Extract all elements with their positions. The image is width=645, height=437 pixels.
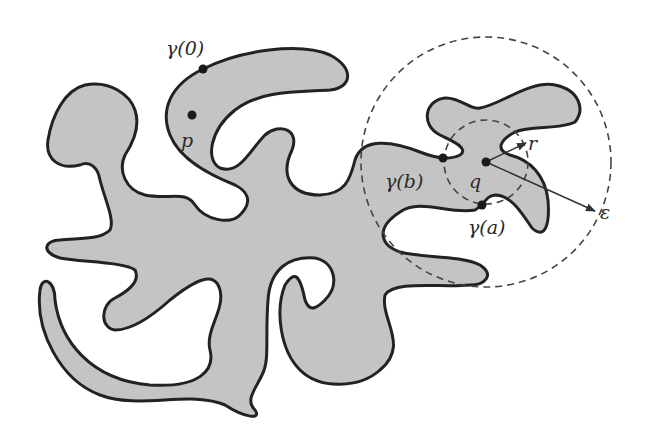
- q-point: [482, 158, 491, 167]
- r-label: r: [528, 132, 539, 154]
- p-label: p: [181, 129, 193, 151]
- gamma-a-label: γ(a): [468, 216, 506, 238]
- topology-diagram: γ(0) p γ(b) q γ(a) r ε: [0, 0, 645, 437]
- gamma0-point: [199, 65, 208, 74]
- gamma-b-label: γ(b): [385, 170, 423, 192]
- gamma0-label: γ(0): [166, 37, 204, 59]
- gamma-a-point: [478, 201, 487, 210]
- q-label: q: [469, 170, 481, 192]
- p-point: [188, 111, 197, 120]
- gamma-b-point: [439, 154, 448, 163]
- epsilon-label: ε: [600, 201, 610, 223]
